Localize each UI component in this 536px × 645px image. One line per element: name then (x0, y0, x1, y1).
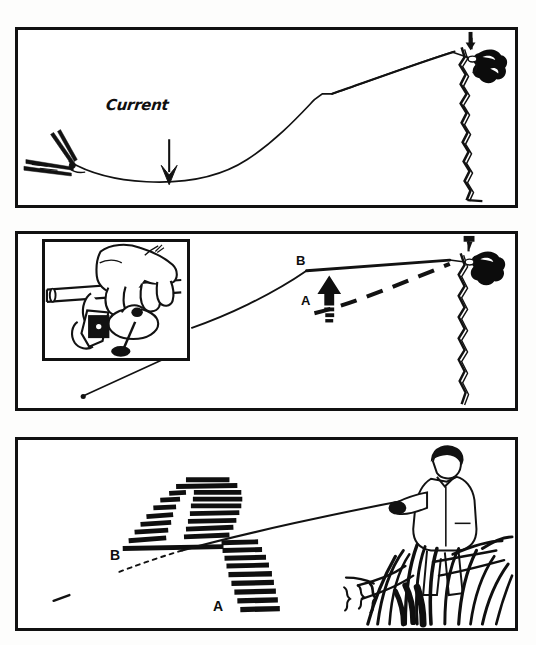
panel3-label-b: B (110, 548, 120, 562)
current-arrow (161, 139, 177, 184)
line-after-mend-solid (192, 271, 307, 328)
panel2-label-b: B (296, 254, 305, 267)
page-canvas: Current (0, 0, 536, 645)
inset-artwork (45, 242, 187, 358)
fishing-line-bow-shadow (332, 52, 453, 94)
line-b-far-dash (54, 595, 70, 601)
inset-leader-line (81, 356, 172, 399)
mend-up-arrow (317, 276, 341, 323)
rod-tip-left (24, 130, 85, 176)
panel2-label-a: A (301, 294, 310, 307)
reed-top-arrow (466, 32, 476, 50)
panel-1-line-bow: Current (15, 27, 518, 208)
panel-3-artwork (18, 440, 515, 628)
line-after-mend-solid-top (307, 260, 450, 271)
panel3-label-a: A (213, 599, 223, 613)
panel-1-artwork (18, 30, 515, 205)
current-label: Current (105, 98, 169, 113)
snag-blob (471, 251, 505, 285)
reed-top-arrow (464, 236, 475, 250)
snag-blob (473, 49, 507, 83)
inset-hand-on-reel (42, 239, 190, 361)
panel-3-loop-flip: B A (15, 437, 518, 631)
line-b-dotted (117, 550, 182, 572)
